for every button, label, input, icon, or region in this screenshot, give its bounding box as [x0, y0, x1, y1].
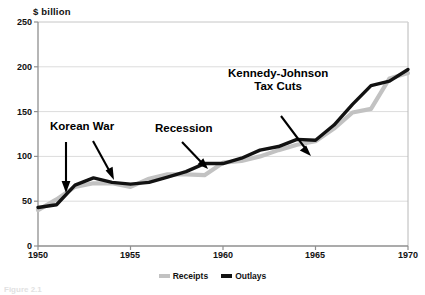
legend-swatch-receipts — [159, 274, 170, 278]
legend-swatch-outlays — [221, 274, 232, 278]
plot-background — [38, 22, 408, 246]
annotation-tax-cuts-line1: Kennedy-Johnson — [228, 67, 328, 79]
annotation-recession: Recession — [155, 122, 213, 135]
x-tick-label-1950: 1950 — [16, 250, 60, 260]
annotation-korean-war: Korean War — [50, 120, 114, 133]
y-tick-label-200: 200 — [2, 62, 32, 72]
chart-legend: Receipts Outlays — [0, 271, 425, 281]
x-tick-label-1960: 1960 — [201, 250, 245, 260]
y-tick-label-150: 150 — [2, 107, 32, 117]
annotation-tax-cuts-line2: Tax Cuts — [254, 80, 302, 92]
x-tick-label-1970: 1970 — [386, 250, 425, 260]
legend-label-receipts: Receipts — [173, 271, 208, 281]
legend-item-receipts: Receipts — [159, 271, 208, 281]
legend-item-outlays: Outlays — [221, 271, 266, 281]
figure-container: $ billion 250 200 150 100 50 0 1950 1955… — [0, 0, 425, 295]
figure-caption: Figure 2.1 — [4, 285, 42, 294]
x-tick-label-1965: 1965 — [293, 250, 337, 260]
legend-label-outlays: Outlays — [235, 271, 266, 281]
y-tick-label-250: 250 — [2, 17, 32, 27]
y-axis-unit-label: $ billion — [33, 6, 71, 17]
y-tick-label-100: 100 — [2, 151, 32, 161]
annotation-tax-cuts: Kennedy-Johnson Tax Cuts — [228, 67, 328, 93]
x-tick-label-1955: 1955 — [108, 250, 152, 260]
y-tick-label-50: 50 — [2, 196, 32, 206]
